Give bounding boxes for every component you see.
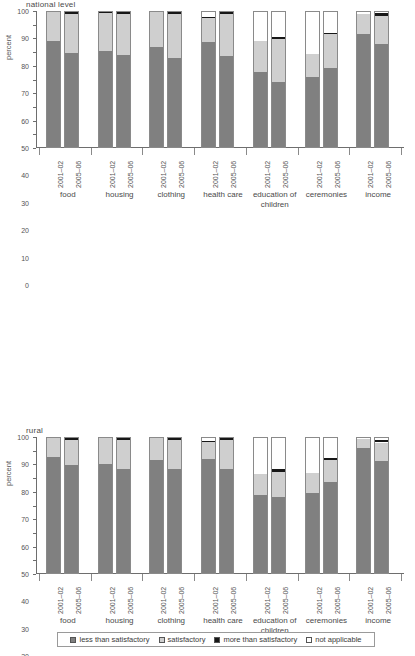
x-axis-labels: 2001–022005–062001–022005–062001–022005–… [36, 150, 404, 190]
legend-swatch-icon [70, 637, 76, 643]
y-tick-label: 90 [21, 461, 29, 468]
y-tick-label: 70 [21, 516, 29, 523]
stacked-bar [305, 11, 320, 148]
legend-label: not applicable [315, 635, 361, 644]
x-tick-label: 2001–02 [57, 161, 64, 188]
stacked-bar [98, 11, 113, 148]
stacked-bar [64, 437, 79, 574]
stacked-bar [46, 437, 61, 574]
stacked-bar [167, 11, 182, 148]
x-tick-label: 2005–06 [75, 161, 82, 188]
chart-page: national level 0102030405060708090100 pe… [0, 0, 415, 656]
x-tick-label: 2001–02 [212, 161, 219, 188]
x-tick-label: 2001–02 [316, 587, 323, 614]
bars-container [36, 437, 404, 574]
stacked-bar [253, 11, 268, 148]
y-tick-label: 70 [21, 90, 29, 97]
stacked-bar [271, 11, 286, 148]
y-tick-label: 40 [21, 172, 29, 179]
x-tick-label: 2001–02 [160, 587, 167, 614]
stacked-bar [323, 437, 338, 574]
legend-label: less than satisfactory [79, 635, 149, 644]
y-tick-label: 40 [21, 598, 29, 605]
y-tick-label: 20 [21, 227, 29, 234]
legend-swatch-icon [306, 637, 312, 643]
stacked-bar [201, 11, 216, 148]
stacked-bar [98, 437, 113, 574]
chart-panel-national: national level 0102030405060708090100 pe… [0, 0, 415, 210]
bars-container [36, 11, 404, 148]
x-tick-label: 2001–02 [160, 161, 167, 188]
y-tick-label: 80 [21, 62, 29, 69]
y-tick-label: 30 [21, 625, 29, 632]
y-tick-label: 50 [21, 145, 29, 152]
x-tick-label: 2005–06 [178, 587, 185, 614]
y-tick-label: 60 [21, 543, 29, 550]
legend-swatch-icon [214, 637, 220, 643]
x-tick-label: 2005–06 [230, 587, 237, 614]
x-axis-labels: 2001–022005–062001–022005–062001–022005–… [36, 576, 404, 616]
x-tick-label: 2005–06 [282, 161, 289, 188]
group-labels: foodhousingclothinghealth careeducation … [36, 190, 404, 212]
stacked-bar [219, 437, 234, 574]
stacked-bar [219, 11, 234, 148]
x-tick-label: 2001–02 [264, 161, 271, 188]
y-tick-label: 80 [21, 488, 29, 495]
y-axis-title: percent [4, 35, 13, 60]
x-tick-label: 2001–02 [367, 161, 374, 188]
x-tick-label: 2005–06 [385, 161, 392, 188]
y-tick-label: 90 [21, 35, 29, 42]
legend-item-less: less than satisfactory [70, 635, 149, 644]
x-tick-label: 2005–06 [127, 587, 134, 614]
stacked-bar [149, 11, 164, 148]
x-tick-label: 2001–02 [109, 161, 116, 188]
legend-item-more: more than satisfactory [214, 635, 297, 644]
legend-item-sat: satisfactory [159, 635, 206, 644]
y-axis-title: percent [4, 461, 13, 486]
y-tick-label: 10 [21, 254, 29, 261]
stacked-bar [116, 11, 131, 148]
y-tick-label: 100 [17, 434, 29, 441]
stacked-bar [323, 11, 338, 148]
y-tick-label: 0 [25, 282, 29, 289]
x-tick-label: 2001–02 [264, 587, 271, 614]
plot-area: 0102030405060708090100 [36, 11, 404, 148]
panel-title: national level [26, 0, 76, 9]
x-tick-label: 2001–02 [367, 587, 374, 614]
x-tick-label: 2005–06 [75, 587, 82, 614]
x-tick-label: 2005–06 [334, 587, 341, 614]
x-tick-label: 2005–06 [334, 161, 341, 188]
plot-area: 0102030405060708090100 [36, 437, 404, 574]
y-tick-label: 60 [21, 117, 29, 124]
stacked-bar [253, 437, 268, 574]
y-tick-label: 100 [17, 8, 29, 15]
legend-swatch-icon [159, 637, 165, 643]
stacked-bar [116, 437, 131, 574]
y-tick-label: 50 [21, 571, 29, 578]
group-label: income [346, 616, 410, 626]
stacked-bar [201, 437, 216, 574]
stacked-bar [46, 11, 61, 148]
y-tick-label: 30 [21, 199, 29, 206]
legend-item-na: not applicable [306, 635, 361, 644]
x-tick-label: 2001–02 [57, 587, 64, 614]
stacked-bar [374, 437, 389, 574]
x-tick-label: 2005–06 [127, 161, 134, 188]
stacked-bar [271, 437, 286, 574]
x-tick-label: 2005–06 [385, 587, 392, 614]
chart-panel-rural: rural 0102030405060708090100 percent 200… [0, 426, 415, 636]
group-label: income [346, 190, 410, 200]
x-tick-label: 2001–02 [109, 587, 116, 614]
chart-legend: less than satisfactorysatisfactorymore t… [57, 632, 375, 647]
stacked-bar [374, 11, 389, 148]
stacked-bar [167, 437, 182, 574]
stacked-bar [305, 437, 320, 574]
stacked-bar [356, 437, 371, 574]
stacked-bar [64, 11, 79, 148]
x-tick-label: 2001–02 [212, 587, 219, 614]
stacked-bar [356, 11, 371, 148]
x-tick-label: 2001–02 [316, 161, 323, 188]
x-tick-label: 2005–06 [178, 161, 185, 188]
x-tick-label: 2005–06 [230, 161, 237, 188]
stacked-bar [149, 437, 164, 574]
